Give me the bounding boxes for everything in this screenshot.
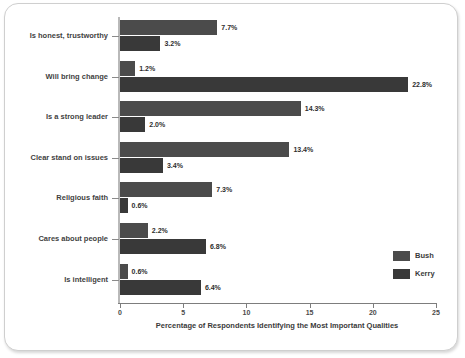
category-tick: [112, 77, 119, 78]
category-label: Cares about people: [0, 234, 108, 243]
bar-kerry: [120, 117, 145, 132]
legend-label-bush: Bush: [415, 250, 434, 262]
bar-bush: [120, 264, 128, 279]
bar-group: Religious faith7.3%0.6%: [0, 182, 465, 214]
category-tick: [112, 36, 119, 37]
bar-kerry: [120, 280, 201, 295]
bar-kerry: [120, 158, 163, 173]
bar-kerry: [120, 77, 408, 92]
x-axis-tick: [183, 303, 184, 308]
category-tick: [112, 117, 119, 118]
bar-value-label: 1.2%: [139, 61, 155, 76]
bar-kerry: [120, 36, 160, 51]
plot-area: 0510152025 Is honest, trustworthy7.7%3.2…: [0, 0, 465, 358]
category-tick: [112, 280, 119, 281]
bar-bush: [120, 223, 148, 238]
x-axis-tick-label: 25: [432, 309, 440, 316]
bar-group: Will bring change1.2%22.8%: [0, 61, 465, 93]
x-axis-tick-label: 5: [181, 309, 185, 316]
bar-value-label: 2.0%: [149, 117, 165, 132]
bar-bush: [120, 142, 289, 157]
bar-kerry: [120, 239, 206, 254]
x-axis-tick-label: 20: [369, 309, 377, 316]
chart-figure: 0510152025 Is honest, trustworthy7.7%3.2…: [0, 0, 465, 358]
category-label: Is a strong leader: [0, 112, 108, 121]
x-axis-title: Percentage of Respondents Identifying th…: [118, 321, 436, 330]
x-axis-tick: [246, 303, 247, 308]
x-axis-tick-label: 0: [118, 309, 122, 316]
bar-value-label: 13.4%: [293, 142, 313, 157]
x-axis-tick: [436, 303, 437, 308]
legend-swatch-kerry-icon: [393, 269, 410, 279]
x-axis-tick: [310, 303, 311, 308]
bar-value-label: 3.2%: [164, 36, 180, 51]
bar-value-label: 3.4%: [167, 158, 183, 173]
x-axis-tick: [373, 303, 374, 308]
bar-value-label: 0.6%: [132, 264, 148, 279]
bar-group: Is honest, trustworthy7.7%3.2%: [0, 20, 465, 52]
x-axis-tick-label: 10: [242, 309, 250, 316]
bar-kerry: [120, 198, 128, 213]
category-tick: [112, 158, 119, 159]
x-axis-spine: [118, 303, 436, 304]
category-label: Religious faith: [0, 193, 108, 202]
bar-value-label: 7.7%: [221, 20, 237, 35]
bar-value-label: 14.3%: [305, 101, 325, 116]
bar-bush: [120, 182, 212, 197]
x-axis-tick-label: 15: [306, 309, 314, 316]
category-tick: [112, 198, 119, 199]
bar-group: Is a strong leader14.3%2.0%: [0, 101, 465, 133]
legend-label-kerry: Kerry: [415, 268, 435, 280]
bar-bush: [120, 101, 301, 116]
bar-value-label: 7.3%: [216, 182, 232, 197]
category-label: Is honest, trustworthy: [0, 31, 108, 40]
bar-bush: [120, 61, 135, 76]
bar-value-label: 6.8%: [210, 239, 226, 254]
legend-swatch-bush-icon: [393, 251, 410, 261]
category-label: Clear stand on issues: [0, 153, 108, 162]
bar-value-label: 2.2%: [152, 223, 168, 238]
category-label: Will bring change: [0, 72, 108, 81]
category-tick: [112, 239, 119, 240]
bar-bush: [120, 20, 217, 35]
bar-value-label: 6.4%: [205, 280, 221, 295]
bar-value-label: 0.6%: [132, 198, 148, 213]
x-axis-tick: [120, 303, 121, 308]
bar-value-label: 22.8%: [412, 77, 432, 92]
bar-group: Clear stand on issues13.4%3.4%: [0, 142, 465, 174]
category-label: Is intelligent: [0, 275, 108, 284]
